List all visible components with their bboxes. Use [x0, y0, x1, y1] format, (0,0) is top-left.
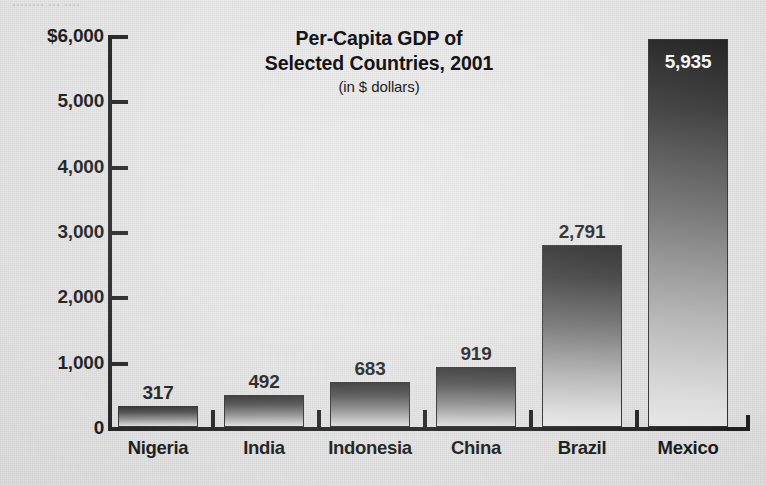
bar-value-label-mexico: 5,935: [635, 51, 741, 73]
bar-mexico: [648, 39, 728, 427]
bar-value-label-india: 492: [211, 371, 317, 393]
bar-value-label-indonesia: 683: [317, 358, 423, 380]
x-axis-right-foot: [746, 415, 750, 431]
chart-subtitle: (in $ dollars): [214, 77, 544, 97]
y-axis-tick-label: $6,000: [8, 25, 104, 47]
bar-india: [224, 395, 304, 427]
bar-brazil: [542, 245, 622, 427]
bar-value-label-brazil: 2,791: [529, 221, 635, 243]
y-axis-tick: [112, 296, 128, 300]
y-axis-tick: [112, 231, 128, 235]
y-axis-tick-label: 0: [8, 417, 104, 439]
bar-value-label-nigeria: 317: [105, 382, 211, 404]
x-axis-tick: [635, 410, 639, 428]
y-axis-tick: [112, 362, 128, 366]
y-axis-tick-label: 5,000: [8, 90, 104, 112]
y-axis-tick: [112, 35, 128, 39]
x-axis-tick: [529, 410, 533, 428]
x-axis-label-china: China: [418, 437, 534, 459]
y-axis-tick-label: 3,000: [8, 221, 104, 243]
bar-china: [436, 367, 516, 427]
x-axis-label-nigeria: Nigeria: [100, 437, 216, 459]
chart-title-line-2: Selected Countries, 2001: [214, 51, 544, 76]
x-axis-label-india: India: [206, 437, 322, 459]
y-axis-tick: [112, 166, 128, 170]
x-axis-label-indonesia: Indonesia: [312, 437, 428, 459]
x-axis-label-brazil: Brazil: [524, 437, 640, 459]
x-axis-line: [108, 427, 750, 431]
chart-page: ........ ... .... Per-Capita GDP of Sele…: [0, 0, 766, 486]
x-axis-label-mexico: Mexico: [630, 437, 746, 459]
y-axis-tick-label: 1,000: [8, 352, 104, 374]
y-axis-labels: 01,0002,0003,0004,0005,000$6,000: [0, 0, 104, 486]
y-axis-tick-label: 2,000: [8, 286, 104, 308]
bar-value-label-china: 919: [423, 343, 529, 365]
y-axis-tick-label: 4,000: [8, 156, 104, 178]
y-axis-tick: [112, 100, 128, 104]
chart-title-block: Per-Capita GDP of Selected Countries, 20…: [214, 26, 544, 97]
bar-indonesia: [330, 382, 410, 427]
x-axis-tick: [317, 410, 321, 428]
x-axis-tick: [423, 410, 427, 428]
bar-nigeria: [118, 406, 198, 427]
x-axis-tick: [211, 410, 215, 428]
chart-title-line-1: Per-Capita GDP of: [214, 26, 544, 51]
